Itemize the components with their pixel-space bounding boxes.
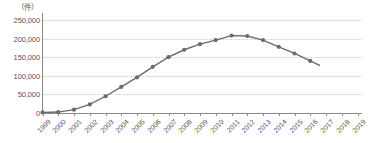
- x-axis-tick-labels: 1999200020012002200320042005200620072008…: [42, 0, 371, 143]
- line-chart: （件） 050,000100,000150,000200,000250,000 …: [0, 0, 371, 143]
